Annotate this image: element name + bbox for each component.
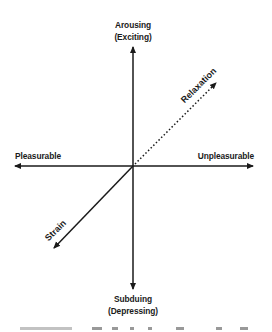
affect-diagram: Arousing (Exciting) Subduing (Depressing…	[0, 0, 272, 332]
axes-canvas	[0, 0, 272, 332]
arousing-label-line2: (Exciting)	[98, 31, 168, 43]
subduing-label: Subduing (Depressing)	[98, 293, 168, 317]
arousing-label-line1: Arousing	[98, 19, 168, 31]
unpleasurable-label: Unpleasurable	[198, 150, 254, 162]
strain-arrow	[54, 166, 133, 248]
pleasurable-label: Pleasurable	[15, 150, 61, 162]
caption-fragments	[0, 323, 272, 332]
figure-caption-clipped	[0, 323, 272, 332]
arousing-label: Arousing (Exciting)	[98, 19, 168, 43]
subduing-label-line2: (Depressing)	[98, 305, 168, 317]
subduing-label-line1: Subduing	[98, 293, 168, 305]
